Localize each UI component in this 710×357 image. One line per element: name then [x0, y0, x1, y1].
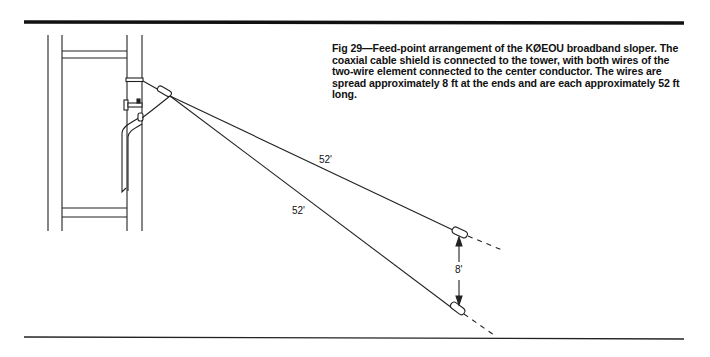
clamp-and-coax: [122, 78, 143, 192]
feed-insulator: [142, 81, 172, 118]
tower: [48, 35, 142, 231]
lower-wire-length-label: 52': [292, 205, 305, 216]
wire-continuation-dashes: [464, 236, 502, 335]
top-rule: [24, 22, 684, 23]
figure-caption: Fig 29—Feed-point arrangement of the KØE…: [332, 43, 692, 101]
bottom-rule: [24, 337, 684, 339]
end-spacing-label: 8': [455, 264, 462, 275]
upper-wire-length-label: 52': [319, 154, 332, 165]
wires: [170, 96, 453, 308]
